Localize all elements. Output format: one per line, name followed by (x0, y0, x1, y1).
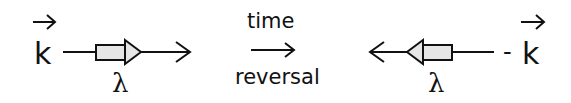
right-k-overarrow-icon (521, 15, 544, 29)
time-label: time (247, 9, 294, 33)
right-wave-vector-group: λ - k (370, 15, 544, 98)
left-k-overarrow-icon (33, 15, 55, 29)
left-wavepacket-head-icon (125, 40, 141, 64)
left-propagation-arrow (63, 40, 190, 64)
left-wavepacket-box (96, 45, 125, 60)
time-reversal-operator: time reversal (235, 9, 320, 89)
time-reversal-diagram: k λ time reversal λ - (0, 0, 571, 103)
left-k-label: k (34, 36, 52, 71)
left-lambda-label: λ (112, 68, 128, 98)
reversal-label: reversal (235, 65, 320, 89)
right-wavepacket-head-icon (407, 40, 423, 64)
right-minus-sign: - (503, 38, 512, 66)
right-propagation-arrow (370, 40, 494, 64)
transform-arrow-icon (251, 43, 294, 57)
left-wave-vector-group: k λ (33, 15, 190, 98)
right-lambda-label: λ (428, 68, 444, 98)
right-k-label: k (522, 36, 540, 71)
right-wavepacket-box (423, 45, 452, 60)
